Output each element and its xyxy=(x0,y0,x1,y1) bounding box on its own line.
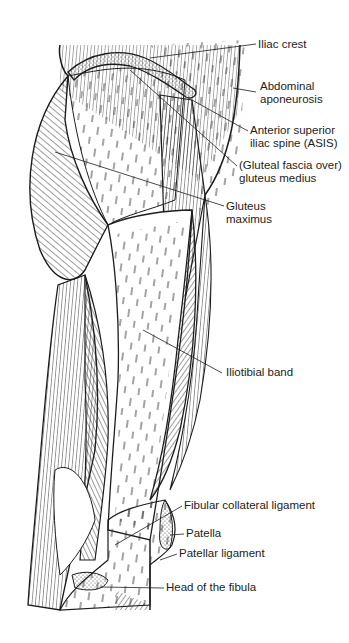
label-line: Gluteus xyxy=(226,200,272,213)
label-line: (Gluteal fascia over) xyxy=(239,159,342,172)
label-line: Patella xyxy=(186,527,221,540)
label-abdominal-aponeurosis: Abdominal aponeurosis xyxy=(260,80,323,106)
label-line: maximus xyxy=(226,213,272,226)
label-line: Abdominal xyxy=(260,80,323,93)
label-fibular-collateral-ligament: Fibular collateral ligament xyxy=(184,499,315,512)
label-line: iliac spine (ASIS) xyxy=(250,137,338,150)
hamstring-muscles xyxy=(28,275,108,610)
label-gluteus-medius: (Gluteal fascia over) gluteus medius xyxy=(239,159,342,185)
label-line: Iliac crest xyxy=(258,38,307,51)
label-patella: Patella xyxy=(186,527,221,540)
label-patellar-ligament: Patellar ligament xyxy=(179,547,265,560)
label-line: Head of the fibula xyxy=(166,581,256,594)
label-line: Patellar ligament xyxy=(179,547,265,560)
label-head-of-fibula: Head of the fibula xyxy=(166,581,256,594)
label-line: aponeurosis xyxy=(260,93,323,106)
label-gluteus-maximus: Gluteus maximus xyxy=(226,200,272,226)
label-line: Fibular collateral ligament xyxy=(184,499,315,512)
label-line: Anterior superior xyxy=(250,124,338,137)
label-asis: Anterior superior iliac spine (ASIS) xyxy=(250,124,338,150)
label-line: gluteus medius xyxy=(239,172,342,185)
label-line: Iliotibial band xyxy=(226,366,293,379)
label-iliac-crest: Iliac crest xyxy=(258,38,307,51)
label-iliotibial-band: Iliotibial band xyxy=(226,366,293,379)
